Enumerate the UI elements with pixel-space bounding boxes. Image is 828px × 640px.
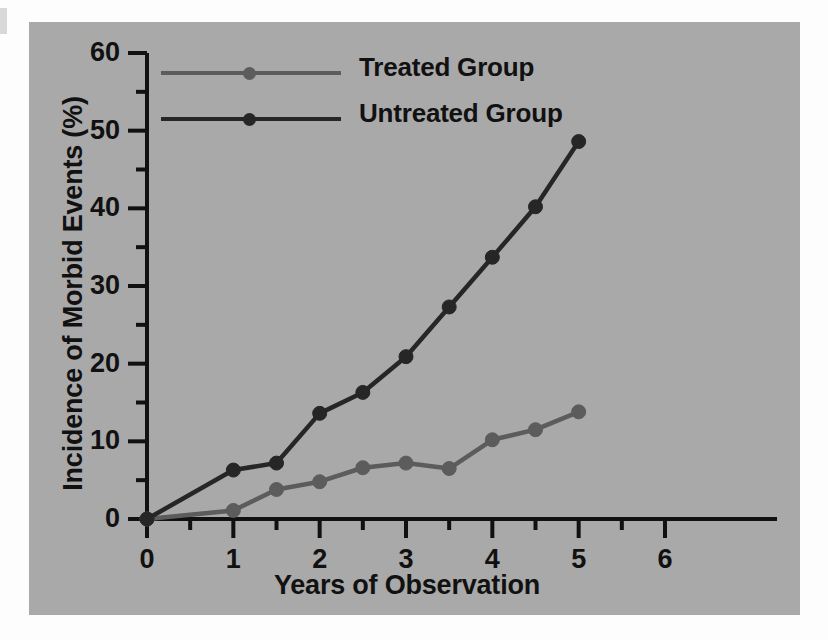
legend-swatch-treated [161, 64, 341, 82]
legend-item-untreated-group: Untreated Group [161, 96, 581, 142]
y-tick-label-60: 60 [68, 39, 120, 66]
x-tick-label-4: 4 [472, 546, 512, 573]
x-axis-ticks [147, 519, 665, 538]
legend-label-untreated: Untreated Group [359, 98, 563, 129]
legend-label-treated: Treated Group [359, 52, 534, 83]
chart-legend: Treated Group Untreated Group [161, 50, 581, 142]
y-tick-label-20: 20 [68, 350, 120, 377]
legend-item-treated-group: Treated Group [161, 50, 581, 96]
x-tick-label-2: 2 [300, 546, 340, 573]
data-series-group [140, 135, 586, 526]
y-tick-label-40: 40 [68, 194, 120, 221]
y-tick-label-10: 10 [68, 427, 120, 454]
y-tick-label-30: 30 [68, 272, 120, 299]
x-tick-label-5: 5 [559, 546, 599, 573]
scan-edge-artifact [0, 8, 7, 34]
x-tick-label-1: 1 [213, 546, 253, 573]
legend-swatch-untreated [161, 110, 341, 128]
figure-panel: Incidence of Morbid Events (%) Years of … [29, 22, 800, 615]
y-tick-label-0: 0 [68, 505, 120, 532]
x-tick-label-3: 3 [386, 546, 426, 573]
x-tick-label-6: 6 [645, 546, 685, 573]
page-background: Incidence of Morbid Events (%) Years of … [0, 0, 828, 640]
y-tick-label-50: 50 [68, 117, 120, 144]
y-axis-ticks [128, 53, 147, 519]
x-tick-label-0: 0 [127, 546, 167, 573]
